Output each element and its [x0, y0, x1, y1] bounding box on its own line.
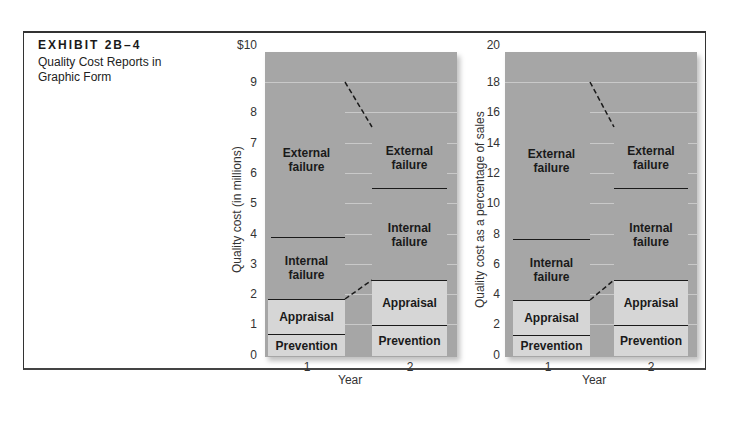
y-axis-label: Quality cost as a percentage of sales [473, 111, 487, 308]
y-tick: 18 [470, 75, 500, 89]
y-tick: 20 [470, 38, 500, 52]
x-axis-label: Year [582, 373, 606, 387]
x-tick: 1 [538, 360, 558, 374]
trend-dashed-lines [0, 0, 742, 421]
y-tick: 0 [470, 348, 500, 362]
y-tick: 2 [470, 317, 500, 331]
x-tick: 2 [641, 360, 661, 374]
